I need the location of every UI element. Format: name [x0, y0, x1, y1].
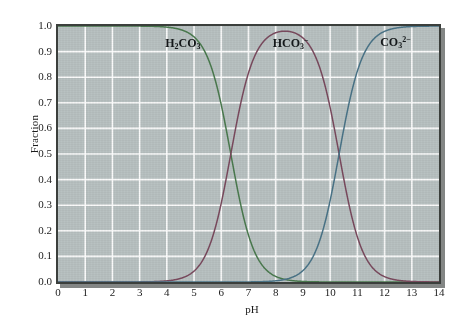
series-label-co3-2-: CO32− [380, 35, 411, 50]
speciation-diagram-figure: 0.00.10.20.30.40.50.60.70.80.91.0 012345… [0, 0, 472, 328]
gridlines [58, 26, 439, 282]
x-tick-label: 1 [73, 286, 97, 298]
x-axis-title: pH [0, 303, 472, 315]
y-tick-label: 0.9 [18, 45, 52, 57]
y-tick-label: 0.4 [18, 173, 52, 185]
y-axis-title: Fraction [28, 94, 40, 174]
x-tick-label: 11 [345, 286, 369, 298]
x-tick-label: 6 [209, 286, 233, 298]
x-tick-label: 3 [128, 286, 152, 298]
y-tick-label: 1.0 [18, 19, 52, 31]
x-tick-label: 4 [155, 286, 179, 298]
y-tick-label: 0.2 [18, 224, 52, 236]
x-tick-label: 2 [100, 286, 124, 298]
x-tick-label: 9 [291, 286, 315, 298]
x-tick-label: 8 [264, 286, 288, 298]
plot-panel [56, 24, 441, 284]
series-label-h2co3: H2CO3 [165, 36, 200, 51]
plot-canvas [58, 26, 439, 282]
x-axis-title-text: pH [245, 303, 258, 315]
x-tick-label: 0 [46, 286, 70, 298]
x-tick-label: 14 [427, 286, 451, 298]
y-tick-label: 0.1 [18, 249, 52, 261]
x-tick-label: 7 [237, 286, 261, 298]
y-tick-label: 0.3 [18, 198, 52, 210]
x-tick-label: 13 [400, 286, 424, 298]
series-label-hco3-: HCO3− [273, 36, 309, 51]
y-tick-label: 0.8 [18, 70, 52, 82]
x-tick-label: 10 [318, 286, 342, 298]
x-tick-label: 12 [373, 286, 397, 298]
x-tick-label: 5 [182, 286, 206, 298]
